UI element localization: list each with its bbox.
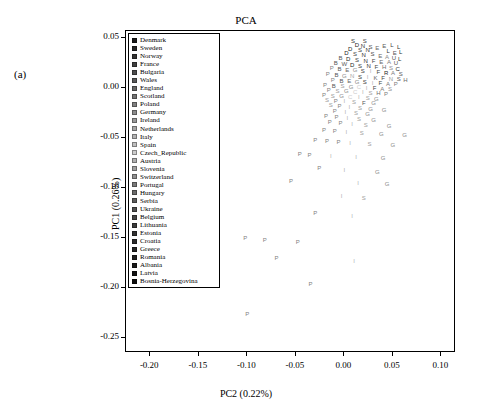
legend-item: Spain — [132, 141, 217, 149]
data-point: P — [298, 151, 302, 157]
legend-item: France — [132, 60, 217, 68]
data-point: S — [358, 105, 362, 111]
data-point: H — [403, 77, 407, 83]
legend-label: Bulgaria — [140, 68, 164, 76]
data-point: I — [344, 98, 346, 104]
legend-item: Scotland — [132, 92, 217, 100]
legend-swatch-icon — [132, 182, 137, 187]
legend-label: Portugal — [140, 181, 164, 189]
legend-swatch-icon — [132, 54, 137, 59]
legend-label: Croatia — [140, 237, 161, 245]
legend-item: Italy — [132, 133, 217, 141]
legend-label: Slovenia — [140, 165, 165, 173]
y-tick-label: 0.05 — [83, 31, 119, 41]
x-tick-label: 0.10 — [415, 360, 465, 370]
x-tick-mark — [149, 352, 150, 356]
x-tick-label: 0.00 — [318, 360, 368, 370]
legend-item: Latvia — [132, 269, 217, 277]
data-point: P — [245, 311, 249, 317]
data-point: I — [351, 213, 353, 219]
chart-title: PCA — [0, 14, 492, 26]
data-point: I — [362, 89, 364, 95]
x-tick-mark — [392, 352, 393, 356]
legend-label: Albania — [140, 261, 162, 269]
data-point: P — [313, 137, 317, 143]
legend-swatch-icon — [132, 271, 137, 276]
legend-swatch-icon — [132, 158, 137, 163]
legend-item: Czech_Republic — [132, 149, 217, 157]
legend-swatch-icon — [132, 38, 137, 43]
x-tick-mark — [246, 352, 247, 356]
legend-label: France — [140, 60, 159, 68]
data-point: S — [360, 130, 364, 136]
legend-swatch-icon — [132, 255, 137, 260]
data-point: L — [390, 42, 393, 48]
legend-swatch-icon — [132, 279, 137, 284]
data-point: S — [362, 195, 366, 201]
data-point: S — [357, 116, 361, 122]
legend-swatch-icon — [132, 94, 137, 99]
legend-label: Spain — [140, 141, 156, 149]
data-point: G — [379, 131, 384, 137]
legend-swatch-icon — [132, 62, 137, 67]
legend-item: Norway — [132, 52, 217, 60]
data-point: S — [364, 122, 368, 128]
legend-label: Bosnia-Herzegovina — [140, 277, 198, 285]
data-point: P — [330, 65, 334, 71]
legend-item: Serbia — [132, 197, 217, 205]
legend-swatch-icon — [132, 118, 137, 123]
data-point: G — [381, 155, 386, 161]
legend-item: England — [132, 84, 217, 92]
legend-swatch-icon — [132, 247, 137, 252]
legend-label: Belgium — [140, 213, 164, 221]
data-point: S — [366, 95, 370, 101]
data-point: C — [357, 84, 361, 90]
data-point: P — [394, 81, 398, 87]
legend-item: Poland — [132, 100, 217, 108]
legend-label: Greece — [140, 245, 160, 253]
legend-label: Romania — [140, 253, 165, 261]
legend-swatch-icon — [132, 46, 137, 51]
data-point: G — [375, 169, 380, 175]
legend-item: Ukraine — [132, 205, 217, 213]
legend-item: Bulgaria — [132, 68, 217, 76]
legend-item: Romania — [132, 253, 217, 261]
legend-label: Netherlands — [140, 125, 174, 133]
legend-label: Serbia — [140, 197, 158, 205]
legend-label: Germany — [140, 108, 166, 116]
data-point: G — [382, 107, 387, 113]
legend-item: Sweden — [132, 44, 217, 52]
data-point: P — [338, 103, 342, 109]
x-tick-mark — [295, 352, 296, 356]
legend-item: Austria — [132, 157, 217, 165]
y-tick-label: -0.10 — [83, 181, 119, 191]
y-tick-label: -0.05 — [83, 131, 119, 141]
legend-label: Scotland — [140, 92, 165, 100]
legend-swatch-icon — [132, 215, 137, 220]
data-point: K — [373, 75, 377, 81]
legend-label: Italy — [140, 133, 153, 141]
data-point: L — [398, 56, 401, 62]
legend-swatch-icon — [132, 231, 137, 236]
data-point: I — [370, 68, 372, 74]
figure-container: (a) PCA PC1 (0.26%) PC2 (0.22%) 0.050.00… — [0, 0, 492, 411]
legend-swatch-icon — [132, 198, 137, 203]
legend-item: Greece — [132, 245, 217, 253]
data-point: I — [353, 258, 355, 264]
data-point: B — [335, 72, 339, 78]
y-tick-label: -0.25 — [83, 331, 119, 341]
data-point: I — [358, 94, 360, 100]
legend-label: Sweden — [140, 44, 162, 52]
data-point: P — [326, 71, 330, 77]
data-point: I — [348, 104, 350, 110]
legend-label: Estonia — [140, 229, 161, 237]
x-tick-label: -0.15 — [173, 360, 223, 370]
data-point: I — [330, 153, 332, 159]
legend-swatch-icon — [132, 110, 137, 115]
legend-item: Ireland — [132, 116, 217, 124]
data-point: P — [338, 120, 342, 126]
data-point: I — [357, 180, 359, 186]
data-point: P — [289, 178, 293, 184]
legend-swatch-icon — [132, 190, 137, 195]
data-point: P — [337, 139, 341, 145]
